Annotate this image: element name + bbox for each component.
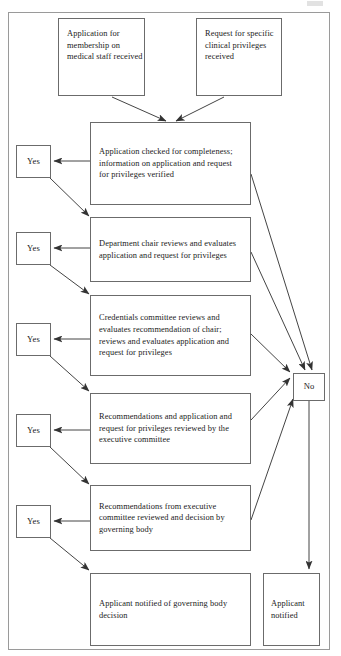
edge-chair-to-no bbox=[251, 252, 305, 370]
node-step-department-chair-label: Department chair reviews and evaluates a… bbox=[99, 238, 243, 261]
decision-yes-1[interactable]: Yes bbox=[16, 145, 51, 178]
node-step-completeness[interactable]: Application checked for completeness; in… bbox=[90, 122, 251, 205]
decision-no[interactable]: No bbox=[293, 373, 325, 401]
edge-application-to-completeness bbox=[112, 97, 166, 121]
decision-yes-2[interactable]: Yes bbox=[16, 232, 51, 265]
decision-yes-5[interactable]: Yes bbox=[16, 505, 51, 538]
node-step-executive-committee-label: Recommendations and application and requ… bbox=[99, 411, 243, 446]
edge-governing-to-no bbox=[251, 399, 293, 520]
decision-yes-5-label: Yes bbox=[17, 516, 50, 528]
node-step-credentials-committee[interactable]: Credentials committee reviews and evalua… bbox=[90, 295, 251, 376]
edge-yes4-to-governing bbox=[50, 447, 89, 484]
node-start-request-label: Request for specific clinical privileges… bbox=[205, 28, 281, 63]
edge-yes5-to-notified-governing bbox=[50, 538, 89, 570]
node-end-notified-governing[interactable]: Applicant notified of governing body dec… bbox=[90, 573, 251, 646]
node-step-department-chair[interactable]: Department chair reviews and evaluates a… bbox=[90, 217, 251, 282]
node-end-notified[interactable]: Applicant notified bbox=[263, 573, 320, 646]
node-end-notified-label: Applicant notified bbox=[271, 598, 312, 621]
edge-credentials-to-no bbox=[251, 334, 290, 372]
edge-yes3-to-executive bbox=[50, 356, 89, 391]
decision-yes-3-label: Yes bbox=[17, 334, 50, 346]
node-end-notified-governing-label: Applicant notified of governing body dec… bbox=[99, 598, 242, 621]
decision-yes-2-label: Yes bbox=[17, 243, 50, 255]
node-step-credentials-committee-label: Credentials committee reviews and evalua… bbox=[99, 312, 243, 358]
edge-yes2-to-credentials bbox=[50, 265, 89, 294]
node-start-application-label: Application for membership on medical st… bbox=[67, 28, 144, 63]
edge-executive-to-no bbox=[251, 378, 290, 420]
flowchart-page: Application for membership on medical st… bbox=[0, 0, 341, 656]
node-start-application[interactable]: Application for membership on medical st… bbox=[58, 18, 145, 96]
node-start-request[interactable]: Request for specific clinical privileges… bbox=[196, 18, 282, 96]
node-step-governing-body[interactable]: Recommendations from executive committee… bbox=[90, 485, 251, 551]
decision-yes-4[interactable]: Yes bbox=[16, 414, 51, 447]
node-step-executive-committee[interactable]: Recommendations and application and requ… bbox=[90, 393, 251, 464]
decision-yes-4-label: Yes bbox=[17, 425, 50, 437]
node-step-completeness-label: Application checked for completeness; in… bbox=[99, 146, 243, 181]
decision-yes-1-label: Yes bbox=[17, 156, 50, 168]
decision-yes-3[interactable]: Yes bbox=[16, 323, 51, 356]
node-step-governing-body-label: Recommendations from executive committee… bbox=[99, 501, 243, 536]
edge-yes1-to-chair bbox=[50, 178, 89, 216]
decision-no-label: No bbox=[294, 381, 324, 393]
edge-request-to-completeness bbox=[176, 97, 224, 121]
